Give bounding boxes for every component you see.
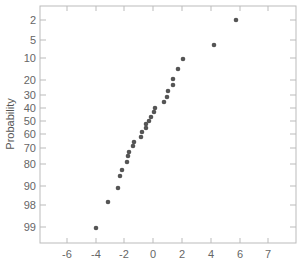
data-points: [94, 18, 239, 231]
x-tick-label: 4: [208, 248, 214, 260]
data-point: [140, 130, 145, 135]
data-point: [126, 154, 131, 159]
y-tick-label: 30: [24, 89, 36, 101]
y-tick-label: 50: [24, 115, 36, 127]
y-tick-label: 10: [24, 52, 36, 64]
y-axis-tick-labels: 251020304050607080909899: [24, 14, 36, 233]
y-tick-label: 40: [24, 102, 36, 114]
data-point: [94, 226, 99, 231]
x-tick-label: 6: [237, 248, 243, 260]
data-point: [120, 168, 125, 173]
data-point: [127, 150, 132, 155]
x-tick-label: -4: [91, 248, 101, 260]
y-tick-label: 20: [24, 74, 36, 86]
x-tick-label: -2: [119, 248, 129, 260]
data-point: [118, 174, 123, 179]
data-point: [165, 95, 170, 100]
data-point: [234, 18, 239, 23]
x-tick-label: 0: [150, 248, 156, 260]
y-tick-label: 80: [24, 158, 36, 170]
x-tick-label: 2: [179, 248, 185, 260]
data-point: [144, 126, 149, 131]
data-point: [152, 110, 157, 115]
y-tick-label: 2: [30, 14, 36, 26]
data-point: [116, 186, 121, 191]
y-tick-label: 5: [30, 34, 36, 46]
data-point: [144, 122, 149, 127]
data-point: [212, 43, 217, 48]
data-point: [153, 106, 158, 111]
x-axis-ticks: [67, 6, 268, 243]
y-axis-ticks: [40, 20, 296, 227]
plot-frame: [40, 6, 296, 243]
data-point: [149, 115, 154, 120]
y-axis-title: Probability: [4, 98, 16, 150]
data-point: [171, 83, 176, 88]
data-point: [181, 57, 186, 62]
y-tick-label: 98: [24, 199, 36, 211]
data-point: [171, 77, 176, 82]
data-point: [139, 135, 144, 140]
data-point: [106, 200, 111, 205]
probability-plot: -6-4-202467 251020304050607080909899 Pro…: [0, 0, 306, 260]
data-point: [125, 160, 130, 165]
data-point: [176, 67, 181, 72]
data-point: [132, 140, 137, 145]
data-point: [131, 144, 136, 149]
x-axis-tick-labels: -6-4-202467: [62, 248, 271, 260]
x-tick-label: -6: [62, 248, 72, 260]
y-tick-label: 70: [24, 142, 36, 154]
y-tick-label: 60: [24, 128, 36, 140]
data-point: [166, 89, 171, 94]
x-tick-label: 7: [265, 248, 271, 260]
y-tick-label: 99: [24, 221, 36, 233]
y-tick-label: 90: [24, 180, 36, 192]
data-point: [162, 100, 167, 105]
